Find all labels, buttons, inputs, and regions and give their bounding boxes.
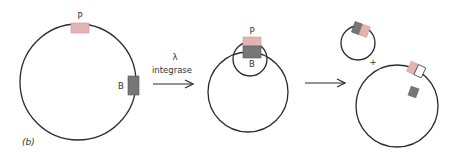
- stage2-p-site: [243, 37, 261, 46]
- integrase-excision-diagram: P B (b) λ integrase P B +: [0, 0, 459, 154]
- stage3-free-b-site: [408, 86, 420, 98]
- stage1-b-site: [128, 76, 139, 95]
- panel-label: (b): [22, 137, 35, 147]
- stage2-b-label: B: [249, 59, 255, 69]
- stage2-b-site: [243, 46, 261, 58]
- arrow1-lambda-label: λ: [172, 52, 177, 62]
- stage1-p-site: [71, 23, 89, 33]
- stage3-plus: +: [369, 57, 376, 67]
- stage2-outer-circle: [208, 52, 288, 132]
- stage1-plasmid: P B (b): [20, 11, 139, 147]
- arrow1-integrase-label: integrase: [152, 65, 192, 75]
- stage2-p-label: P: [249, 26, 254, 36]
- stage2-synapse: P B: [208, 26, 288, 132]
- stage3-products: +: [341, 22, 438, 147]
- arrow1-group: λ integrase: [152, 52, 193, 84]
- stage1-p-label: P: [77, 11, 82, 21]
- stage1-b-label: B: [118, 81, 124, 91]
- stage3-large-circle: [356, 65, 438, 147]
